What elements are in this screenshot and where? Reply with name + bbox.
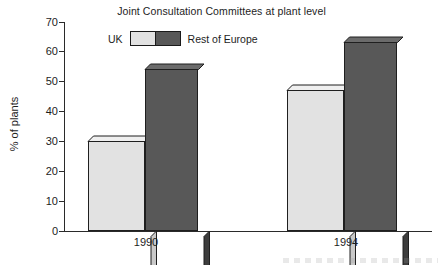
y-tick-70: 70 <box>46 17 58 28</box>
y-tick-30: 30 <box>46 136 58 147</box>
y-axis-title: % of plants <box>8 74 20 174</box>
y-tick-60: 60 <box>46 46 58 57</box>
x-tick-label-1990: 1990 <box>134 236 158 248</box>
bar-uk-1994-front <box>287 90 344 231</box>
y-tick-10: 10 <box>46 196 58 207</box>
x-tick-label-1994: 1994 <box>334 236 358 248</box>
bar-chart: Joint Consultation Committees at plant l… <box>0 0 443 265</box>
x-axis-line <box>64 231 432 232</box>
bar-rest-of-europe-1990-front <box>145 69 198 231</box>
bar-uk-1990-front <box>88 141 145 231</box>
bar-uk-1994 <box>287 85 344 231</box>
y-tick-50: 50 <box>46 76 58 87</box>
y-tick-20: 20 <box>46 166 58 177</box>
legend-swatch-rest-of-europe <box>155 32 180 45</box>
legend-label-uk: UK <box>108 33 123 45</box>
legend-swatch-uk <box>131 32 155 45</box>
bar-uk-1990 <box>88 136 145 231</box>
chart-legend: UK Rest of Europe <box>108 29 258 48</box>
y-axis-line <box>64 22 65 232</box>
chart-title: Joint Consultation Committees at plant l… <box>0 5 443 17</box>
bar-rest-of-europe-1994-front <box>344 42 397 231</box>
legend-swatch-group <box>130 31 181 46</box>
bar-rest-of-europe-1994 <box>344 37 397 231</box>
legend-label-rest-of-europe: Rest of Europe <box>188 33 258 45</box>
y-tick-40: 40 <box>46 106 58 117</box>
y-tick-0: 0 <box>52 226 58 237</box>
bar-rest-of-europe-1990 <box>145 64 198 231</box>
footer-text-artifact <box>283 258 438 263</box>
y-axis-tick-labels: 0 10 20 30 40 50 60 70 <box>28 0 58 265</box>
